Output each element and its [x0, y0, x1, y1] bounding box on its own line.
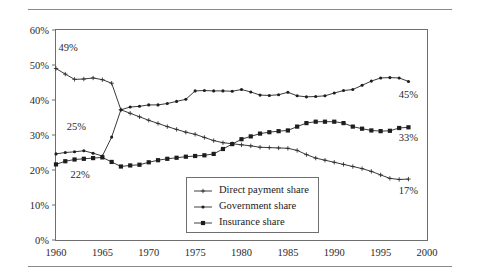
marker-square — [286, 128, 290, 132]
marker-dot — [201, 205, 204, 208]
marker-square — [323, 120, 327, 124]
x-axis: 196019651970197519801985199019952000 — [46, 247, 438, 258]
marker-dot — [64, 151, 67, 154]
marker-square — [156, 158, 160, 162]
data-label-group: 49%17%25%45%22%33% — [58, 42, 418, 196]
marker-dot — [147, 103, 150, 106]
marker-square — [193, 154, 197, 158]
marker-square — [184, 155, 188, 159]
marker-dot — [82, 149, 85, 152]
marker-dot — [138, 105, 141, 108]
marker-dot — [388, 76, 391, 79]
chart-legend: Direct payment shareGovernment shareInsu… — [187, 178, 319, 233]
marker-dot — [110, 136, 113, 139]
series-1 — [54, 66, 411, 181]
series-3 — [54, 120, 411, 169]
data-series-group — [54, 66, 411, 181]
x-tick-label: 1985 — [277, 247, 298, 258]
marker-square — [221, 147, 225, 151]
data-label-end-1: 17% — [399, 185, 419, 196]
marker-dot — [73, 150, 76, 153]
marker-dot — [286, 91, 289, 94]
marker-square — [72, 157, 76, 161]
marker-dot — [175, 100, 178, 103]
marker-square — [249, 134, 253, 138]
marker-square — [165, 157, 169, 161]
data-label-end-2: 45% — [399, 89, 419, 100]
marker-square — [91, 156, 95, 160]
data-label-end-3: 33% — [399, 132, 419, 143]
marker-dot — [296, 94, 299, 97]
marker-dot — [407, 80, 410, 83]
marker-dot — [92, 152, 95, 155]
marker-dot — [212, 89, 215, 92]
marker-square — [388, 129, 392, 133]
y-tick-label: 10% — [30, 200, 50, 211]
marker-dot — [203, 89, 206, 92]
marker-square — [119, 164, 123, 168]
marker-dot — [351, 88, 354, 91]
line-chart: 0%10%20%30%40%50%60% 1960196519701975198… — [0, 0, 480, 274]
x-tick-label: 1975 — [185, 247, 206, 258]
legend-label: Insurance share — [219, 216, 285, 227]
data-label-start-1: 49% — [58, 42, 78, 53]
marker-dot — [194, 89, 197, 92]
marker-square — [201, 221, 205, 225]
y-tick-label: 50% — [30, 60, 50, 71]
marker-dot — [184, 98, 187, 101]
marker-square — [147, 160, 151, 164]
marker-square — [406, 125, 410, 129]
marker-square — [137, 163, 141, 167]
x-tick-label: 1970 — [138, 247, 159, 258]
marker-square — [202, 153, 206, 157]
x-tick-label: 1960 — [46, 247, 67, 258]
marker-square — [332, 120, 336, 124]
marker-dot — [259, 94, 262, 97]
x-tick-label: 1995 — [370, 247, 391, 258]
marker-dot — [249, 90, 252, 93]
marker-square — [110, 160, 114, 164]
marker-dot — [305, 95, 308, 98]
marker-square — [128, 163, 132, 167]
marker-dot — [166, 102, 169, 105]
marker-dot — [268, 94, 271, 97]
y-tick-label: 20% — [30, 165, 50, 176]
marker-square — [239, 137, 243, 141]
marker-dot — [361, 84, 364, 87]
marker-dot — [379, 76, 382, 79]
marker-square — [304, 121, 308, 125]
marker-dot — [277, 93, 280, 96]
marker-square — [360, 127, 364, 131]
data-label-start-3: 22% — [70, 169, 90, 180]
legend-label: Government share — [219, 200, 297, 211]
y-tick-label: 60% — [30, 25, 50, 36]
marker-square — [54, 162, 58, 166]
chart-figure: 0%10%20%30%40%50%60% 1960196519701975198… — [0, 0, 480, 274]
y-axis: 0%10%20%30%40%50%60% — [30, 25, 56, 246]
marker-square — [230, 142, 234, 146]
marker-dot — [323, 94, 326, 97]
marker-square — [314, 120, 318, 124]
marker-dot — [314, 95, 317, 98]
marker-dot — [221, 89, 224, 92]
marker-square — [82, 157, 86, 161]
x-tick-label: 1965 — [92, 247, 113, 258]
marker-dot — [119, 108, 122, 111]
marker-dot — [370, 80, 373, 83]
marker-square — [397, 126, 401, 130]
marker-square — [277, 129, 281, 133]
marker-square — [295, 125, 299, 129]
marker-dot — [231, 90, 234, 93]
marker-dot — [398, 76, 401, 79]
y-tick-label: 40% — [30, 95, 50, 106]
marker-square — [212, 152, 216, 156]
data-label-start-2: 25% — [67, 121, 87, 132]
marker-dot — [156, 103, 159, 106]
marker-square — [379, 129, 383, 133]
x-tick-label: 1990 — [324, 247, 345, 258]
marker-square — [258, 132, 262, 136]
x-tick-label: 2000 — [417, 247, 438, 258]
y-tick-label: 30% — [30, 130, 50, 141]
marker-square — [341, 121, 345, 125]
series-line — [56, 69, 408, 180]
